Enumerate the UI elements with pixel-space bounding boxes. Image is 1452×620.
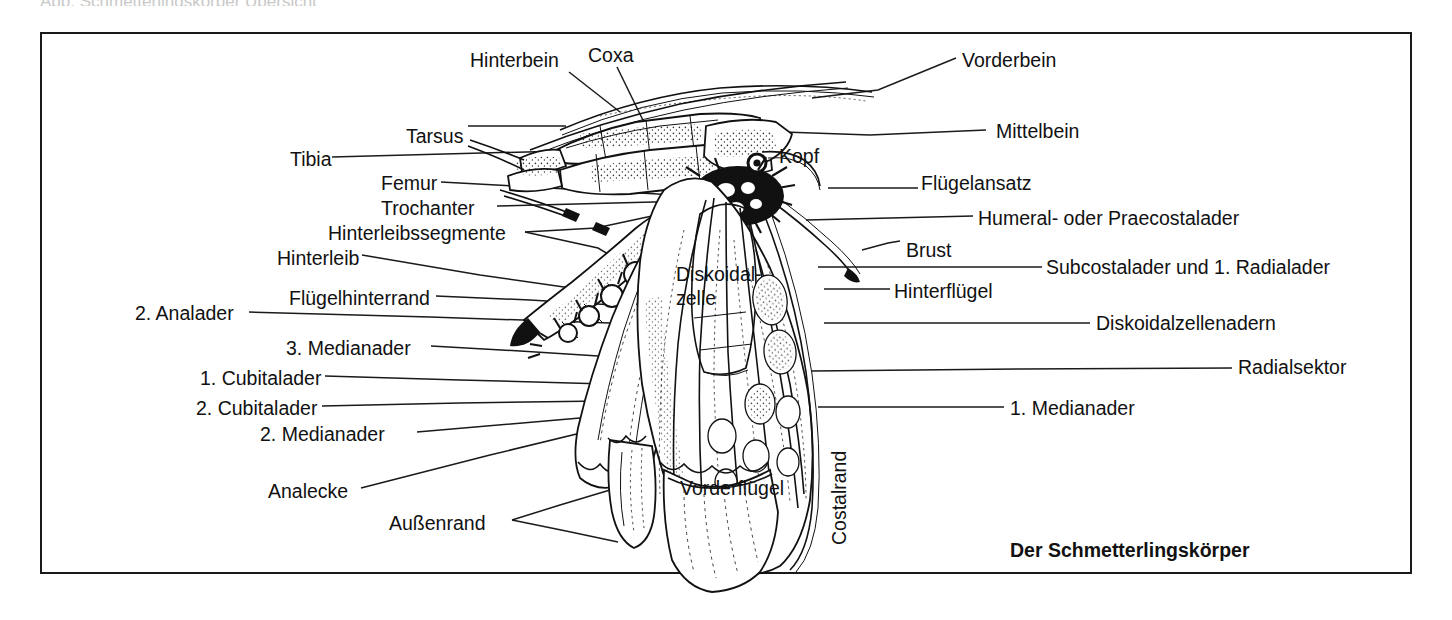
- leader-radialsektor: [812, 368, 1232, 371]
- label-2-analader: 2. Analader: [135, 303, 234, 324]
- leader-aussenrand-b: [512, 520, 618, 542]
- label-kopf: Kopf: [779, 146, 819, 167]
- leader-cubitalader2: [322, 401, 602, 406]
- label-3-medianader: 3. Medianader: [286, 338, 411, 359]
- label-fluegelhinterrand: Flügelhinterrand: [289, 288, 430, 309]
- label-trochanter: Trochanter: [381, 198, 475, 219]
- label-subcostalader-radialader: Subcostalader und 1. Radialader: [1046, 257, 1330, 278]
- label-mittelbein: Mittelbein: [996, 121, 1079, 142]
- leader-aussenrand-a: [512, 490, 610, 520]
- leader-cubitalader1: [325, 376, 606, 384]
- label-coxa: Coxa: [588, 45, 634, 66]
- leader-brust: [862, 241, 900, 250]
- figure-page: Abb. Schmetterlingskörper Übersicht .ln{…: [0, 0, 1452, 620]
- label-2-cubitalader: 2. Cubitalader: [196, 398, 317, 419]
- leader-hinterleib: [362, 255, 592, 291]
- label-diskoidalzelle-line2: zelle: [676, 288, 716, 309]
- label-vorderbein: Vorderbein: [962, 50, 1056, 71]
- label-tibia: Tibia: [290, 149, 332, 170]
- label-hinterbein: Hinterbein: [470, 50, 559, 71]
- figure-caption: Der Schmetterlingskörper: [1010, 539, 1250, 562]
- label-humeral-praecostalader: Humeral- oder Praecostalader: [978, 208, 1239, 229]
- label-diskoidalzelle-line1: Diskoidal-: [676, 264, 762, 285]
- label-tarsus: Tarsus: [406, 126, 463, 147]
- label-hinterleib: Hinterleib: [277, 248, 359, 269]
- label-brust: Brust: [906, 240, 952, 261]
- label-2-medianader: 2. Medianader: [260, 424, 385, 445]
- label-diskoidalzellenadern: Diskoidalzellenadern: [1096, 313, 1276, 334]
- label-analecke: Analecke: [268, 481, 348, 502]
- label-1-medianader: 1. Medianader: [1010, 398, 1135, 419]
- leader-humeral: [806, 216, 973, 220]
- label-1-cubitalader: 1. Cubitalader: [200, 368, 321, 389]
- label-vorderfluegel: Vorderflügel: [680, 478, 784, 499]
- leader-medianader3: [431, 346, 614, 357]
- label-femur: Femur: [381, 173, 437, 194]
- leader-hinterbein: [569, 72, 620, 112]
- label-hinterleibssegmente: Hinterleibssegmente: [328, 223, 506, 244]
- leader-vorderbein: [812, 58, 956, 98]
- label-hinterfluegel: Hinterflügel: [894, 281, 993, 302]
- label-fluegelansatz: Flügelansatz: [921, 173, 1032, 194]
- label-radialsektor: Radialsektor: [1238, 357, 1346, 378]
- label-aussenrand: Außenrand: [389, 513, 485, 534]
- label-costalrand: Costalrand: [828, 451, 851, 545]
